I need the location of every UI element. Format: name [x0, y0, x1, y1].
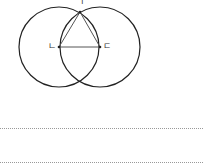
point-right	[99, 46, 102, 49]
point-top	[79, 11, 82, 14]
label-top: ㄱ	[76, 0, 84, 7]
label-left: ㄴ	[48, 42, 56, 51]
label-right: ㄷ	[103, 42, 111, 51]
side-right	[80, 12, 100, 47]
construction-diagram	[0, 0, 203, 168]
point-left	[58, 46, 61, 49]
answer-line-2	[0, 162, 203, 163]
answer-line-1	[0, 128, 203, 129]
side-left	[59, 12, 80, 47]
